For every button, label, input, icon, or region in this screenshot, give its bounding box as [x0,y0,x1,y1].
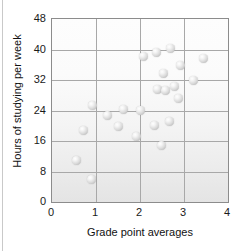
y-axis-tick-label: 32 [2,74,46,85]
data-point [157,141,166,150]
plot-area [51,18,229,203]
x-axis-tick-label: 1 [83,207,107,218]
data-point [119,105,128,114]
data-point [136,106,145,115]
y-axis-tick-label: 0 [2,196,46,207]
x-axis-tick-label: 4 [215,207,239,218]
y-axis-tick-label: 16 [2,135,46,146]
data-point [114,122,123,131]
y-axis-tick-label: 48 [2,13,46,24]
x-axis-title: Grade point averages [51,226,229,238]
data-point [166,44,175,53]
y-axis-tick-label: 40 [2,44,46,55]
scatter-plot-figure: 081624324048 01234 Hours of studying per… [0,0,242,251]
data-point [152,48,161,57]
data-point [72,156,81,165]
data-point [189,76,198,85]
x-axis-tick-labels: 01234 [0,207,242,221]
y-axis-title: Hours of studying per week [11,21,23,181]
gridline-vertical [184,19,185,202]
data-point [103,111,112,120]
data-point [199,54,208,63]
data-point [170,82,179,91]
data-point [165,117,174,126]
gridline-vertical [96,19,97,202]
data-point [132,132,141,141]
x-axis-tick-label: 2 [127,207,151,218]
y-axis-tick-label: 8 [2,166,46,177]
data-point [174,94,183,103]
data-point [161,86,170,95]
data-point [139,52,148,61]
data-point [159,69,168,78]
data-point [150,121,159,130]
x-axis-tick-label: 0 [39,207,63,218]
data-point [79,126,88,135]
y-axis-tick-label: 24 [2,105,46,116]
data-point [87,175,96,184]
x-axis-tick-label: 3 [171,207,195,218]
